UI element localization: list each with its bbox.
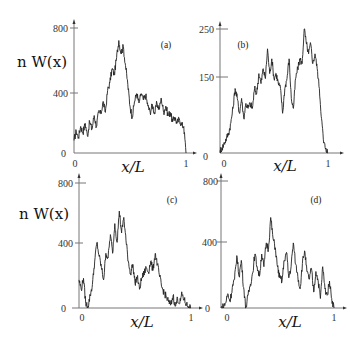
figure: 800 400 0 0 1 (a) n W(x) x/L 250 150 0 0… — [0, 0, 356, 347]
ytick-label-0-d: 0 — [205, 303, 210, 314]
xtick-label-1-c: 1 — [189, 312, 194, 323]
x-axis-title-c: x/L — [130, 313, 154, 331]
panel-tag-b: (b) — [237, 40, 248, 51]
ytick-label-400-a: 400 — [53, 88, 68, 99]
y-axis-arrow-icon — [220, 173, 223, 178]
xtick-label-0-a: 0 — [73, 158, 78, 169]
panel-a: 800 400 0 0 1 (a) n W(x) x/L — [17, 19, 197, 176]
panel-b: 250 150 0 0 1 (b) x/L — [199, 21, 344, 175]
panel-tag-a: (a) — [161, 40, 172, 51]
y-axis-arrow-icon — [73, 19, 76, 24]
x-axis-title-b: x/L — [273, 157, 297, 175]
ytick-label-800-a: 800 — [53, 23, 68, 34]
ytick-label-250-b: 250 — [199, 24, 214, 35]
xtick-label-1-a: 1 — [184, 158, 189, 169]
x-axis-title-a: x/L — [121, 158, 145, 176]
y-axis-arrow-icon — [78, 173, 81, 178]
ytick-label-0-b: 0 — [203, 151, 208, 162]
ytick-label-150-b: 150 — [199, 72, 214, 83]
xtick-label-1-d: 1 — [332, 312, 337, 323]
xtick-label-0-d: 0 — [225, 312, 230, 323]
x-axis-arrow-icon — [193, 152, 197, 155]
x-axis-arrow-icon — [340, 152, 344, 155]
panel-c: 800 400 0 0 1 (c) n W(x) x/L — [19, 173, 203, 331]
y-axis-title-c: n W(x) — [19, 205, 69, 223]
panel-tag-c: (c) — [167, 195, 178, 206]
ytick-label-400-d: 400 — [202, 237, 217, 248]
panel-tag-d: (d) — [310, 195, 321, 206]
y-axis-title-a: n W(x) — [17, 53, 67, 71]
ytick-label-0-a: 0 — [61, 148, 66, 159]
x-axis-arrow-icon — [343, 307, 347, 310]
ytick-label-400-c: 400 — [58, 238, 73, 249]
x-axis-title-d: x/L — [278, 313, 302, 331]
data-curve-b — [220, 29, 328, 153]
y-axis-arrow-icon — [219, 21, 222, 26]
xtick-label-1-b: 1 — [326, 158, 331, 169]
data-curve-d — [221, 218, 334, 309]
ytick-label-800-d: 800 — [203, 176, 218, 187]
panel-d: 800 400 0 0 1 (d) x/L — [202, 173, 347, 331]
data-curve-a — [74, 41, 186, 154]
xtick-label-0-c: 0 — [80, 312, 85, 323]
xtick-label-0-b: 0 — [222, 158, 227, 169]
ytick-label-800-c: 800 — [58, 178, 73, 189]
x-axis-arrow-icon — [199, 307, 203, 310]
data-curve-c — [79, 211, 191, 308]
ytick-label-0-c: 0 — [61, 303, 66, 314]
